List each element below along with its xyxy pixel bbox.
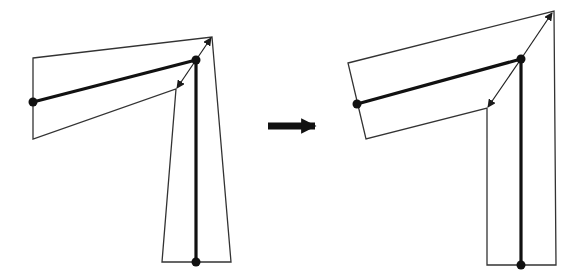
after-bone-horizontal <box>357 59 521 104</box>
before-joints <box>29 56 201 267</box>
after-joints <box>353 55 526 270</box>
joint-dot <box>192 258 201 267</box>
joint-dot <box>353 100 362 109</box>
before-bone-horizontal <box>33 60 196 102</box>
joint-dot <box>517 261 526 270</box>
joint-dot <box>192 56 201 65</box>
after-offset-arrow-out-icon <box>521 13 552 59</box>
before-outline <box>33 37 231 262</box>
after-figure <box>348 11 556 270</box>
after-outline <box>348 11 556 265</box>
joint-dot <box>517 55 526 64</box>
before-figure <box>29 37 232 267</box>
deformation-diagram <box>0 0 579 280</box>
joint-dot <box>29 98 38 107</box>
